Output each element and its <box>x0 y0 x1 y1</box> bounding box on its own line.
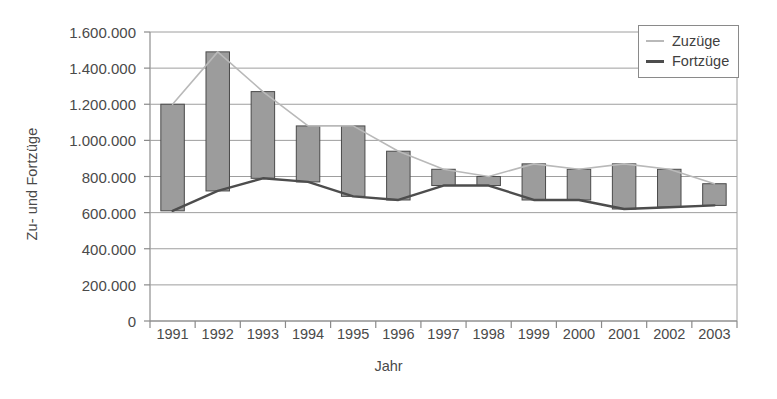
x-tick-label: 2000 <box>563 326 595 342</box>
x-tick-label: 1998 <box>473 326 505 342</box>
chart-bar <box>567 169 590 200</box>
x-axis-tick-labels: 1991199219931994199519961997199819992000… <box>150 326 737 354</box>
legend-line-swatch-icon <box>646 60 664 63</box>
chart-bar <box>161 104 184 211</box>
x-tick-label: 1997 <box>427 326 459 342</box>
legend-line-swatch-icon <box>646 40 664 42</box>
x-tick-label: 1994 <box>292 326 324 342</box>
legend-item-fortzuege: Fortzüge <box>646 51 729 71</box>
chart-bar <box>522 164 545 200</box>
x-tick-label: 1995 <box>337 326 369 342</box>
legend-item-zuzuege: Zuzüge <box>646 31 729 51</box>
x-tick-label: 1993 <box>247 326 279 342</box>
chart-bar <box>341 126 364 196</box>
chart-bar <box>612 164 635 209</box>
x-tick-label: 1996 <box>382 326 414 342</box>
chart-bar <box>296 126 319 182</box>
chart-legend: Zuzüge Fortzüge <box>638 25 739 78</box>
x-tick-label: 1992 <box>202 326 234 342</box>
chart-bar <box>251 92 274 179</box>
x-tick-label: 2001 <box>608 326 640 342</box>
x-tick-label: 2003 <box>698 326 730 342</box>
legend-label: Zuzüge <box>672 33 720 49</box>
x-tick-label: 2002 <box>653 326 685 342</box>
x-tick-label: 1999 <box>518 326 550 342</box>
chart-bar <box>206 52 229 191</box>
chart-bar <box>387 151 410 200</box>
chart-bar <box>703 184 726 206</box>
legend-label: Fortzüge <box>672 53 729 69</box>
chart-bar <box>658 169 681 207</box>
chart-bar <box>477 177 500 186</box>
chart-bar <box>432 169 455 185</box>
y-axis-ticks <box>144 32 150 321</box>
x-tick-label: 1991 <box>156 326 188 342</box>
chart-container: Zu- und Fortzüge 1.600.0001.400.0001.200… <box>0 0 777 399</box>
x-axis-title: Jahr <box>0 358 777 374</box>
